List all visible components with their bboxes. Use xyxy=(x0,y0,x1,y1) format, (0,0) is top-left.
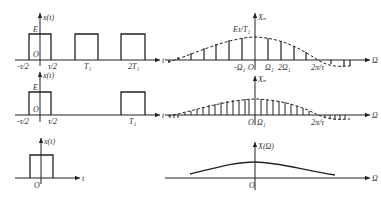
row2-spec-xlabel: Ω xyxy=(372,111,378,120)
row2-time-xlabel: t xyxy=(162,111,165,120)
row1-tick-tau: τ/2 xyxy=(48,62,57,71)
pulse-spectrum-diagram: x(t) t E O -τ/2 τ/2 T₁ 2T₁ Xₙ Ω Eτ/T₁ -Ω… xyxy=(0,0,381,204)
row3-time-ylabel: x(t) xyxy=(43,137,55,146)
row2-spec-ylabel: Xₙ xyxy=(257,75,266,84)
row1-tick-2omega1: 2Ω₁ xyxy=(278,63,291,72)
row1-spec-xlabel: Ω xyxy=(372,56,378,65)
row2-time-plot xyxy=(15,72,160,122)
row1-spec-origin: O xyxy=(248,63,254,72)
row1-tick-omega1: Ω₁ xyxy=(265,63,274,72)
row1-pulse-2 xyxy=(121,34,145,60)
row2-tick-T1: T₁ xyxy=(129,117,136,126)
row2-time-ylabel: x(t) xyxy=(42,71,54,80)
row2-spec-origin: O xyxy=(248,118,254,127)
row3-spec-ylabel: X(Ω) xyxy=(257,142,274,151)
row2-tick-omega1: Ω₁ xyxy=(257,118,266,127)
row1-tick-T1: T₁ xyxy=(84,62,91,71)
row1-time-xlabel: t xyxy=(162,56,165,65)
row2-amp-label: E xyxy=(32,83,38,92)
row3-continuous-spectrum xyxy=(190,162,335,175)
row3-origin: O xyxy=(34,181,40,190)
row2-spectral-lines xyxy=(170,99,345,120)
row1-time-ylabel: x(t) xyxy=(42,13,54,22)
row3-spec-origin: O xyxy=(249,181,255,190)
row1-peak-label: Eτ/T₁ xyxy=(232,25,250,34)
row2-pulse-1 xyxy=(121,92,145,115)
row3-spec-xlabel: Ω xyxy=(372,174,378,183)
row1-tick-2T1: 2T₁ xyxy=(128,62,139,71)
row1-tick-2pi-tau: 2π/τ xyxy=(311,63,325,72)
row1-origin: O xyxy=(33,50,39,59)
row2-tick-2pi-tau: 2π/τ xyxy=(311,118,325,127)
row2-tick-tau: τ/2 xyxy=(48,117,57,126)
row1-envelope xyxy=(168,37,350,66)
row1-amp-label: E xyxy=(32,25,38,34)
row1-tick-neg-omega1: -Ω₁ xyxy=(234,63,245,72)
row1-spectrum-plot xyxy=(165,13,370,70)
row1-spec-ylabel: Xₙ xyxy=(257,13,266,22)
row2-origin: O xyxy=(33,105,39,114)
row1-tick-neg-tau: -τ/2 xyxy=(17,62,29,71)
row3-time-xlabel: t xyxy=(82,174,85,183)
row1-pulse-1 xyxy=(75,34,98,60)
row2-tick-neg-tau: -τ/2 xyxy=(17,117,29,126)
row2-envelope xyxy=(168,99,350,119)
row2-spectrum-plot xyxy=(165,76,370,125)
